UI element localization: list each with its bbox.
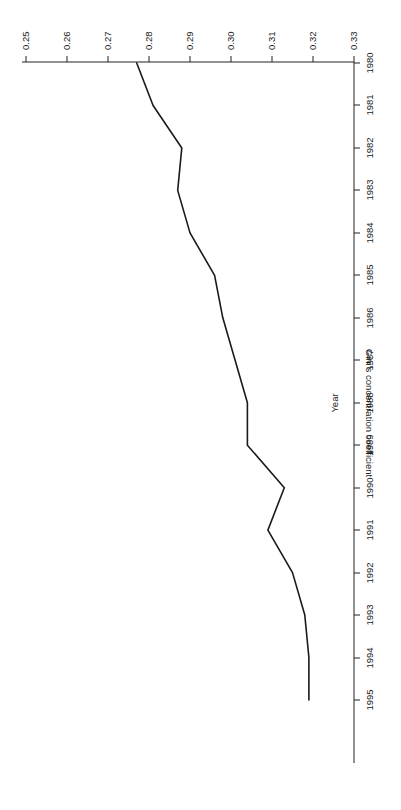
year-tick-label: 1992 [364,562,375,583]
year-tick-label: 1995 [364,689,375,710]
value-tick-label: 0.26 [61,32,72,51]
year-axis-title: Year [329,393,340,412]
year-tick-label: 1980 [364,52,375,73]
year-tick-label: 1985 [364,264,375,285]
chart-background [0,0,401,810]
year-tick-label: 1986 [364,307,375,328]
year-tick-label: 1981 [364,94,375,115]
value-tick-label: 0.29 [184,32,195,51]
year-tick-label: 1982 [364,137,375,158]
value-axis-tick-labels: 0.33 0.32 0.31 0.30 0.29 0.28 0.27 0.26 … [20,32,359,51]
value-tick-label: 0.33 [348,32,359,51]
year-tick-label: 1987 [364,349,375,370]
year-tick-label: 1989 [364,434,375,455]
year-tick-label: 1991 [364,519,375,540]
year-tick-label: 1990 [364,477,375,498]
line-chart: 0.33 0.32 0.31 0.30 0.29 0.28 0.27 0.26 … [0,0,401,810]
value-tick-label: 0.25 [20,32,31,51]
year-tick-label: 1988 [364,392,375,413]
chart-page: 0.33 0.32 0.31 0.30 0.29 0.28 0.27 0.26 … [0,0,401,810]
value-tick-label: 0.32 [307,32,318,51]
year-tick-label: 1983 [364,179,375,200]
year-tick-label: 1994 [364,647,375,668]
value-tick-label: 0.31 [266,32,277,51]
year-tick-label: 1984 [364,222,375,243]
chart-figure: 0.33 0.32 0.31 0.30 0.29 0.28 0.27 0.26 … [0,0,401,810]
value-tick-label: 0.27 [102,32,113,51]
value-tick-label: 0.28 [143,32,154,51]
value-tick-label: 0.30 [225,32,236,51]
year-tick-label: 1993 [364,604,375,625]
